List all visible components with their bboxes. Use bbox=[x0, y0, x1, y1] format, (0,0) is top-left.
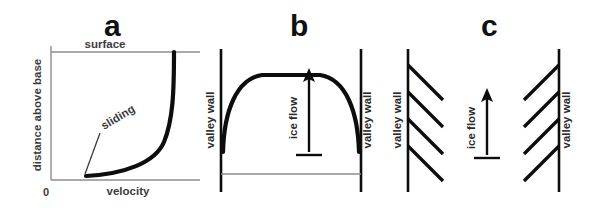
panel-c-left-crevasse bbox=[408, 119, 443, 154]
panel-b-ice-flow-label: ice flow bbox=[287, 97, 299, 139]
panel-c-left-crevasse bbox=[408, 92, 443, 127]
panel-c-left-crevasse bbox=[408, 65, 443, 100]
panel-a-sliding-label: sliding bbox=[99, 102, 137, 131]
panel-b-right-valley-wall-label: valley wall bbox=[361, 92, 373, 149]
panel-c-letter: c bbox=[481, 9, 498, 42]
panel-c-right-valley-wall-label: valley wall bbox=[560, 92, 572, 149]
panel-a-origin-label: 0 bbox=[43, 186, 49, 198]
panel-a: a surface distance above base velocity 0… bbox=[31, 9, 200, 198]
panel-c-right-crevasse bbox=[524, 65, 559, 100]
panel-c-right-crevasse bbox=[524, 119, 559, 154]
panel-c-right-crevasse bbox=[524, 146, 559, 181]
panel-c-right-crevasse bbox=[524, 92, 559, 127]
panel-c-ice-flow-label: ice flow bbox=[465, 107, 477, 149]
panel-b-left-valley-wall-label: valley wall bbox=[204, 92, 216, 149]
panel-a-surface-label: surface bbox=[85, 38, 126, 50]
panel-c-left-valley-wall-label: valley wall bbox=[391, 92, 403, 149]
panel-a-x-axis-label: velocity bbox=[107, 185, 150, 197]
panel-c: c valley wall valley wall ice flow bbox=[391, 9, 572, 192]
panel-a-y-axis-label: distance above base bbox=[31, 59, 43, 172]
panel-b: b ice flow valley wall valley wall bbox=[204, 9, 373, 192]
panel-b-letter: b bbox=[290, 9, 308, 42]
panel-a-sliding-leader-line bbox=[85, 133, 100, 174]
panel-c-left-crevasse bbox=[408, 146, 443, 181]
figure-container: a surface distance above base velocity 0… bbox=[0, 0, 600, 208]
